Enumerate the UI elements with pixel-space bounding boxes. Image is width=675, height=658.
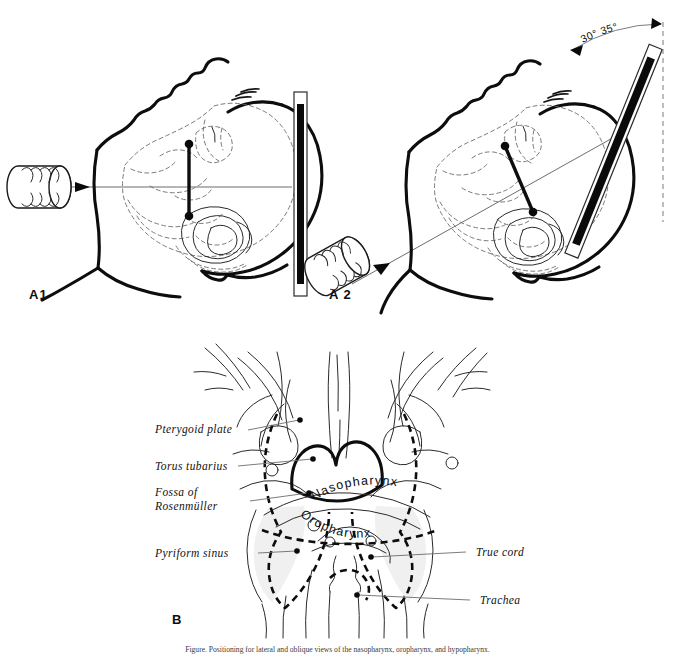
b-leader-label-true-cord: True cord — [476, 546, 524, 558]
b-leader-label-fossa-line2: Rosenmüller — [154, 500, 218, 512]
b-leader-label-pyriform-sinus: Pyriform sinus — [154, 547, 229, 560]
figure-container: A1 — [0, 0, 675, 658]
canvas-background — [0, 0, 675, 658]
figure-caption: Figure. Positioning for lateral and obli… — [0, 645, 675, 658]
b-leader-label-fossa-line1: Fossa of — [154, 486, 199, 499]
b-leader-label-torus-tubarius: Torus tubarius — [155, 460, 228, 472]
b-leader-label-trachea: Trachea — [480, 594, 521, 606]
panel-label-a1: A1 — [29, 287, 48, 302]
panel-label-a2: A 2 — [329, 287, 352, 302]
medical-illustration-svg: A1 — [0, 0, 675, 658]
panel-label-b: B — [172, 612, 182, 627]
b-leader-label-pterygoid-plate: Pterygoid plate — [154, 423, 232, 436]
a1-xray-tube — [7, 166, 71, 208]
